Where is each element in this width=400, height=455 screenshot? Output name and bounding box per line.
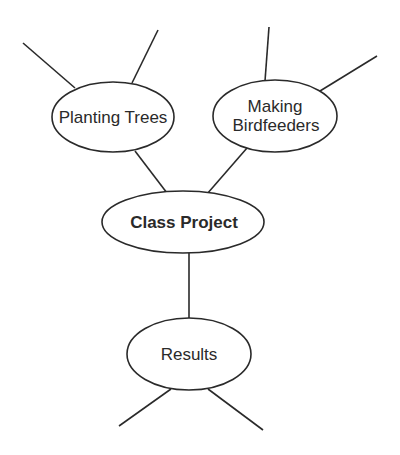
blank-branch-planting-trees-left <box>23 43 75 88</box>
node-planting-trees: Planting Trees <box>52 82 174 152</box>
blank-branch-planting-trees-right <box>132 30 158 83</box>
blank-branch-results-right <box>208 389 263 430</box>
node-results: Results <box>127 318 251 390</box>
connector-planting-trees-to-class-project <box>135 151 167 193</box>
blank-branch-results-left <box>119 389 171 426</box>
web-diagram: Planting Trees Making Birdfeeders Class … <box>0 0 400 455</box>
label-class-project: Class Project <box>130 213 238 232</box>
blank-branch-birdfeeders-right <box>320 56 377 91</box>
connector-birdfeeders-to-class-project <box>207 148 247 194</box>
node-class-project: Class Project <box>102 191 264 253</box>
label-birdfeeders: Birdfeeders <box>233 116 320 135</box>
label-planting-trees: Planting Trees <box>59 108 168 127</box>
label-results: Results <box>161 345 218 364</box>
label-making: Making <box>248 97 303 116</box>
blank-branch-birdfeeders-left <box>265 27 269 81</box>
node-making-birdfeeders: Making Birdfeeders <box>213 80 337 152</box>
